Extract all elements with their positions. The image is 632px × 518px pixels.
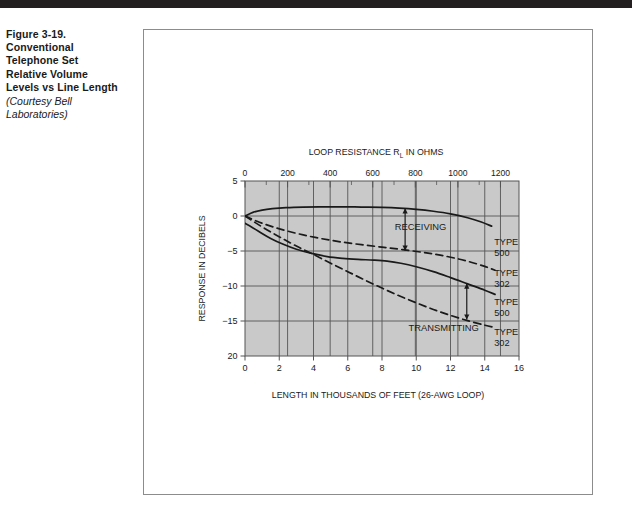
page-top-rule (0, 0, 632, 8)
series-label-line: 302 (494, 279, 509, 289)
caption-line: Figure 3-19. (6, 28, 136, 41)
x-axis-tick-label: 8 (379, 363, 384, 373)
figure-caption-credit: (Courtesy Bell Laboratories) (6, 95, 136, 121)
x-axis-tick-label: 14 (480, 363, 490, 373)
series-label-line: 302 (494, 338, 509, 348)
y-axis-tick-label: −15 (222, 316, 237, 326)
series-label-line: 500 (494, 248, 509, 258)
y-axis-title: RESPONSE IN DECIBELS (197, 215, 207, 321)
series-label-line: TYPE (494, 237, 518, 247)
series-label-line: TYPE (494, 327, 518, 337)
series-label-line: 500 (494, 308, 509, 318)
credit-line: Laboratories) (6, 108, 136, 121)
x-axis-tick-label: 10 (411, 363, 421, 373)
x-axis-tick-label: 12 (445, 363, 455, 373)
x-axis-title: LENGTH IN THOUSANDS OF FEET (26-AWG LOOP… (272, 390, 485, 400)
caption-line: Relative Volume (6, 68, 136, 81)
y-axis-tick-label: −10 (222, 281, 237, 291)
x-axis-tick-label: 0 (242, 363, 247, 373)
y-axis-tick-label: −5 (227, 246, 237, 256)
figure-frame: 020040060080010001200LOOP RESISTANCE RL … (143, 29, 593, 495)
series-label-line: TYPE (494, 297, 518, 307)
top-axis-tick-label: 400 (323, 168, 338, 178)
chart-container: 020040060080010001200LOOP RESISTANCE RL … (144, 30, 594, 496)
annotation-label-receiving: RECEIVING (395, 221, 447, 232)
x-axis-tick-label: 6 (345, 363, 350, 373)
top-axis-tick-label: 0 (243, 168, 248, 178)
y-axis-tick-label: 5 (232, 176, 237, 186)
top-axis-tick-label: 1000 (448, 168, 467, 178)
x-axis-tick-label: 2 (277, 363, 282, 373)
top-axis-tick-label: 200 (280, 168, 295, 178)
caption-line: Conventional (6, 41, 136, 54)
x-axis-tick-label: 16 (514, 363, 524, 373)
figure-caption: Figure 3-19. Conventional Telephone Set … (6, 28, 136, 121)
series-label-line: TYPE (494, 268, 518, 278)
y-axis-tick-label: 20 (227, 351, 237, 361)
x-axis-tick-label: 4 (311, 363, 316, 373)
top-axis-tick-label: 800 (408, 168, 423, 178)
top-axis-tick-label: 1200 (491, 168, 510, 178)
caption-line: Telephone Set (6, 54, 136, 67)
y-axis-tick-label: 0 (232, 211, 237, 221)
top-axis-tick-label: 600 (366, 168, 381, 178)
top-axis-title: LOOP RESISTANCE RL IN OHMS (309, 147, 444, 159)
annotation-label-transmitting: TRANSMITTING (408, 322, 478, 333)
figure-caption-title: Figure 3-19. Conventional Telephone Set … (6, 28, 136, 94)
credit-line: (Courtesy Bell (6, 95, 136, 108)
caption-line: Levels vs Line Length (6, 81, 136, 94)
response-vs-line-length-chart: 020040060080010001200LOOP RESISTANCE RL … (144, 30, 594, 496)
